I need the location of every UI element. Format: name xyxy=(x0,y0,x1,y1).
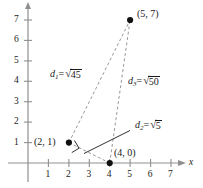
d1-radical: √45 xyxy=(64,68,82,79)
d2-radical: √5 xyxy=(149,119,162,130)
y-tick-label-1: 1 xyxy=(14,138,19,148)
y-tick-label-6: 6 xyxy=(14,35,19,45)
x-tick-label-4: 4 xyxy=(107,170,112,180)
x-tick-label-2: 2 xyxy=(66,170,71,180)
plot-canvas xyxy=(0,0,203,188)
distance-label-d1: d1=√45 xyxy=(50,68,82,81)
point-label-4-0: (4, 0) xyxy=(114,148,136,158)
d1-radicand: 45 xyxy=(70,69,82,80)
point-marker-5-7[interactable] xyxy=(127,17,133,23)
x-axis-arrow xyxy=(178,160,186,166)
distance-label-d3: d3=√50 xyxy=(128,75,160,88)
d2-radicand: 5 xyxy=(155,120,162,131)
y-tick-label-3: 3 xyxy=(14,97,19,107)
y-tick-label-7: 7 xyxy=(14,15,19,25)
y-tick-label-2: 2 xyxy=(14,117,19,127)
distance-label-d2: d2=√5 xyxy=(135,119,162,132)
point-marker-4-0[interactable] xyxy=(107,160,113,166)
x-tick-label-7: 7 xyxy=(168,170,173,180)
right-angle-marker xyxy=(72,141,79,153)
point-label-2-1: (2, 1) xyxy=(34,137,56,147)
y-tick-label-5: 5 xyxy=(14,56,19,66)
x-tick-label-1: 1 xyxy=(46,170,51,180)
y-tick-label-4: 4 xyxy=(14,76,19,86)
segment-d3 xyxy=(110,20,130,163)
coordinate-plane-figure: 1 2 3 4 5 6 7 1 2 3 4 5 6 7 x (2, 1) (5,… xyxy=(0,0,203,188)
x-axis-label: x xyxy=(189,158,193,168)
x-tick-label-5: 5 xyxy=(127,170,132,180)
x-tick-label-6: 6 xyxy=(148,170,153,180)
y-axis-arrow xyxy=(25,2,31,9)
x-tick-label-3: 3 xyxy=(86,170,91,180)
d3-radicand: 50 xyxy=(148,76,160,87)
point-marker-2-1[interactable] xyxy=(66,140,72,146)
d3-radical: √50 xyxy=(142,75,160,86)
dashed-triangle xyxy=(69,20,130,163)
point-label-5-7: (5, 7) xyxy=(137,9,159,19)
